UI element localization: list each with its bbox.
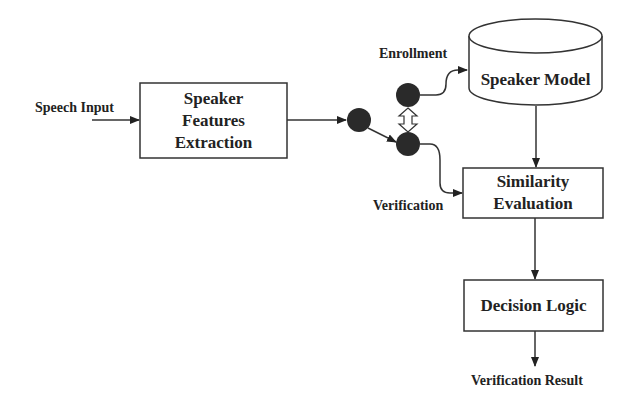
cylinder-top <box>469 19 602 53</box>
enrollment-arrow <box>420 70 467 95</box>
verification-result-label: Verification Result <box>471 373 583 389</box>
junction-dot <box>347 108 371 132</box>
enrollment-label: Enrollment <box>379 46 447 62</box>
toggle-arrow-icon <box>399 108 417 132</box>
verification-arrow <box>420 144 462 193</box>
similarity-box-label: Similarity Evaluation <box>463 168 603 218</box>
similarity-line-1: Similarity <box>497 171 570 193</box>
similarity-line-2: Evaluation <box>493 193 572 215</box>
features-line-2: Features <box>182 110 245 132</box>
verification-switch-dot <box>396 132 420 156</box>
switch-link <box>368 128 396 142</box>
decision-box-label: Decision Logic <box>464 280 603 331</box>
features-box-label: Speaker Features Extraction <box>140 83 287 158</box>
verification-label: Verification <box>373 198 443 214</box>
speaker-model-label: Speaker Model <box>469 68 602 92</box>
features-line-1: Speaker <box>184 88 244 110</box>
enrollment-switch-dot <box>396 83 420 107</box>
features-line-3: Extraction <box>175 132 252 154</box>
speech-input-label: Speech Input <box>35 100 114 116</box>
